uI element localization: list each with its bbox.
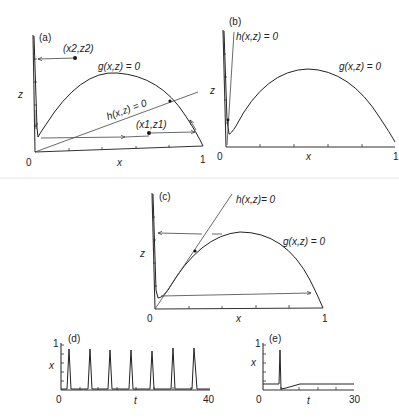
tick-label-1: 1 xyxy=(200,154,206,165)
time-series-single-spike xyxy=(263,350,354,389)
label-x1-z1: (x1,z1) xyxy=(136,119,167,130)
tick-label-1: 1 xyxy=(393,151,399,162)
tick-label-0: 0 xyxy=(56,394,62,405)
h-nullcline-line xyxy=(35,92,198,152)
g-nullcline-curve xyxy=(224,31,395,142)
tick-label-0: 0 xyxy=(217,151,223,162)
panel-label-c: (c) xyxy=(159,191,171,202)
axis-label-x: x xyxy=(305,151,312,162)
axis-label-x: x xyxy=(48,360,55,371)
label-x2-z2: (x2,z2) xyxy=(63,43,94,54)
axis-label-z: z xyxy=(209,85,215,96)
panel-label-a: (a) xyxy=(39,32,51,43)
tick-label-1: 1 xyxy=(53,338,59,349)
tick-label-0: 0 xyxy=(256,394,262,405)
equilibrium-point xyxy=(193,249,196,252)
panel-label-e: (e) xyxy=(269,333,281,344)
equilibrium-point xyxy=(227,119,230,122)
tick-label-40: 40 xyxy=(203,394,215,405)
panel-label-b: (b) xyxy=(229,16,241,27)
label-g-nullcline: g(x,z) = 0 xyxy=(339,61,381,72)
trajectory-arrow-right xyxy=(161,293,311,296)
panel-e: (e) 1 x t 0 30 xyxy=(250,333,361,406)
axis-label-x: x xyxy=(250,357,257,368)
panel-c: (c) h(x,z)= 0 g(x,z) = 0 z x 0 1 xyxy=(139,191,328,324)
tick-label-0: 0 xyxy=(147,313,153,324)
axis-ticks xyxy=(263,345,336,390)
panel-d: (d) 1 x t 0 40 xyxy=(48,333,215,406)
axis-label-t: t xyxy=(134,395,138,406)
trajectory-arrow-left xyxy=(158,233,202,234)
label-h-nullcline: h(x,z) = 0 xyxy=(236,31,278,42)
tick-label-1: 1 xyxy=(255,338,261,349)
trajectory-arrow-x1 xyxy=(149,132,195,133)
g-nullcline-curve xyxy=(34,36,203,146)
h-nullcline-line xyxy=(227,32,234,145)
axis-label-t: t xyxy=(307,395,311,406)
tick-label-30: 30 xyxy=(349,394,361,405)
figure-canvas: (a) (x2,z2) g(x,z) = 0 h(x,z) = 0 (x1,z1… xyxy=(0,0,399,419)
trajectory-segment xyxy=(125,136,149,137)
label-g-nullcline: g(x,z) = 0 xyxy=(283,236,325,247)
tick-label-1: 1 xyxy=(322,313,328,324)
panel-label-d: (d) xyxy=(68,333,80,344)
trajectory-arrow-left xyxy=(38,58,75,59)
x-axis xyxy=(155,308,323,309)
axis-label-z: z xyxy=(17,89,23,100)
panel-a: (a) (x2,z2) g(x,z) = 0 h(x,z) = 0 (x1,z1… xyxy=(17,32,206,168)
g-nullcline-curve xyxy=(153,194,323,308)
time-series-spikes xyxy=(61,348,210,389)
tick-label-0: 0 xyxy=(26,157,32,168)
equilibrium-point xyxy=(168,99,171,102)
label-h-nullcline: h(x,z)= 0 xyxy=(236,194,276,205)
axis-label-z: z xyxy=(139,248,145,259)
axis-label-x: x xyxy=(116,157,123,168)
axis-label-x: x xyxy=(235,313,242,324)
panel-b: (b) h(x,z) = 0 g(x,z) = 0 z x 0 1 xyxy=(209,16,399,162)
trajectory-arrow-right xyxy=(41,137,125,138)
x-axis xyxy=(35,146,203,152)
label-g-nullcline: g(x,z) = 0 xyxy=(98,61,140,72)
